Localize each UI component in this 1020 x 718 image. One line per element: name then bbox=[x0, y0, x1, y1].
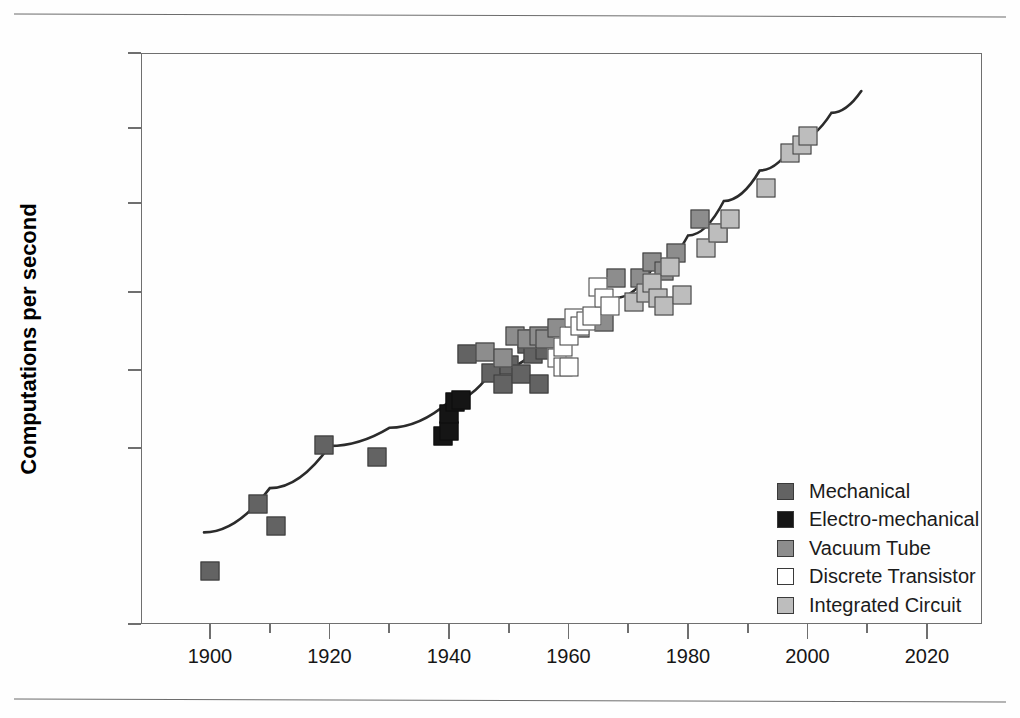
x-axis-minor-tick bbox=[388, 624, 390, 633]
data-point bbox=[440, 422, 459, 441]
x-axis-minor-tick bbox=[866, 624, 868, 633]
data-point bbox=[559, 358, 578, 377]
data-point bbox=[583, 306, 602, 325]
data-point bbox=[529, 374, 548, 393]
y-axis-tick-mark bbox=[128, 202, 141, 204]
legend-label: Mechanical bbox=[809, 480, 910, 503]
legend-label: Discrete Transistor bbox=[809, 565, 976, 588]
page-rule-top bbox=[14, 13, 1006, 17]
legend-swatch-icon bbox=[777, 483, 794, 500]
data-point bbox=[451, 391, 470, 410]
x-axis-tick-label: 2000 bbox=[785, 645, 830, 668]
x-axis-major-tick bbox=[329, 624, 331, 639]
y-axis-tick-mark bbox=[128, 291, 141, 293]
data-point bbox=[475, 342, 494, 361]
legend-label: Electro-mechanical bbox=[809, 508, 979, 531]
chart-legend: MechanicalElectro-mechanicalVacuum TubeD… bbox=[777, 477, 979, 620]
legend-item[interactable]: Vacuum Tube bbox=[777, 534, 979, 563]
x-axis-minor-tick bbox=[747, 624, 749, 633]
x-axis-tick-label: 1980 bbox=[666, 645, 711, 668]
x-axis-major-tick bbox=[807, 624, 809, 639]
x-axis-tick-label: 1900 bbox=[188, 645, 233, 668]
data-point bbox=[201, 562, 220, 581]
data-point bbox=[756, 178, 775, 197]
data-point bbox=[661, 257, 680, 276]
legend-swatch-icon bbox=[777, 511, 794, 528]
x-axis-tick-label: 1960 bbox=[546, 645, 591, 668]
y-axis-tick-mark bbox=[128, 369, 141, 371]
y-axis-tick-mark bbox=[128, 447, 141, 449]
data-point bbox=[248, 495, 267, 514]
data-point bbox=[607, 268, 626, 287]
page-rule-bottom bbox=[14, 698, 1006, 702]
figure-page: Computations per second 1E+121E+91E+61E+… bbox=[0, 0, 1020, 718]
data-point bbox=[511, 365, 530, 384]
x-axis-major-tick bbox=[209, 624, 211, 639]
legend-item[interactable]: Electro-mechanical bbox=[777, 506, 979, 535]
legend-item[interactable]: Discrete Transistor bbox=[777, 563, 979, 592]
legend-item[interactable]: Integrated Circuit bbox=[777, 591, 979, 620]
chart-area: Computations per second 1E+121E+91E+61E+… bbox=[141, 53, 982, 624]
data-point bbox=[368, 447, 387, 466]
x-axis-major-tick bbox=[568, 624, 570, 639]
data-point bbox=[690, 209, 709, 228]
data-point bbox=[601, 296, 620, 315]
legend-label: Integrated Circuit bbox=[809, 594, 961, 617]
data-point bbox=[720, 209, 739, 228]
x-axis-minor-tick bbox=[627, 624, 629, 633]
legend-label: Vacuum Tube bbox=[809, 537, 931, 560]
x-axis-minor-tick bbox=[508, 624, 510, 633]
x-axis-tick-label: 1920 bbox=[307, 645, 352, 668]
data-point bbox=[493, 374, 512, 393]
data-point bbox=[266, 516, 285, 535]
y-axis-tick-mark bbox=[128, 127, 141, 129]
y-axis-title: Computations per second bbox=[16, 203, 42, 474]
legend-swatch-icon bbox=[777, 540, 794, 557]
x-axis-minor-tick bbox=[269, 624, 271, 633]
data-point bbox=[655, 296, 674, 315]
data-point bbox=[798, 126, 817, 145]
data-point bbox=[673, 285, 692, 304]
data-point bbox=[314, 436, 333, 455]
y-axis-tick-mark bbox=[128, 623, 141, 625]
x-axis-major-tick bbox=[448, 624, 450, 639]
legend-item[interactable]: Mechanical bbox=[777, 477, 979, 506]
data-point bbox=[493, 348, 512, 367]
legend-swatch-icon bbox=[777, 597, 794, 614]
x-axis-major-tick bbox=[687, 624, 689, 639]
x-axis-tick-label: 2020 bbox=[905, 645, 950, 668]
x-axis-major-tick bbox=[926, 624, 928, 639]
y-axis-tick-mark bbox=[128, 52, 141, 54]
data-point bbox=[457, 345, 476, 364]
legend-swatch-icon bbox=[777, 568, 794, 585]
x-axis-tick-label: 1940 bbox=[427, 645, 472, 668]
